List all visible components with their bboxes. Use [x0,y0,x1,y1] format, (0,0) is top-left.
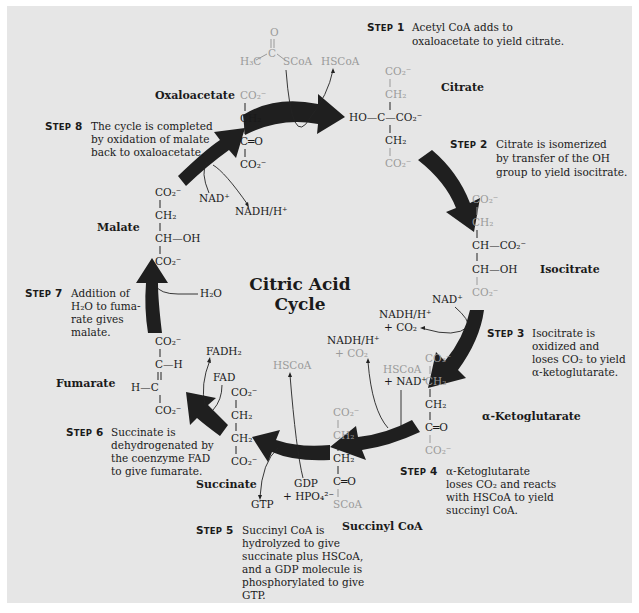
step-text: group to yield isocitrate. [496,166,627,178]
svg-text:CO₂⁻: CO₂⁻ [472,193,498,205]
compound-name-malate: Malate [97,221,140,234]
step2-arrow-icon [418,150,480,232]
step-text: GTP. [242,589,266,601]
svg-text:CH₂: CH₂ [231,409,252,421]
svg-text:CO₂⁻: CO₂⁻ [231,455,257,467]
diagram-title-line2: Cycle [274,294,325,314]
step5-arrow-icon [252,430,330,462]
nadh-label: NADH/H⁺ [327,334,380,346]
step-text: phosphorylated to give [242,576,364,588]
svg-text:CH₂: CH₂ [333,452,354,464]
svg-text:CO₂⁻: CO₂⁻ [155,186,181,198]
step-text: Succinate is [111,426,176,438]
diagram-canvas: Citric Acid Cycle STEP 1 Acetyl CoA adds… [7,6,632,603]
svg-text:CO₂⁻: CO₂⁻ [425,352,451,364]
step-text: Succinyl CoA is [242,524,325,536]
step-3: STEP 3 Isocitrate is oxidized and loses … [487,327,626,378]
step3-cofactors: NAD⁺ NADH/H⁺ + CO₂ [379,293,468,333]
step-2: STEP 2 Citrate is isomerized by transfer… [450,138,627,178]
step-text: Citrate is isomerized [496,138,607,150]
gdp-label: GDP [294,477,318,489]
step-text: the coenzyme FAD [111,452,210,464]
svg-text:CH₂: CH₂ [425,398,446,410]
svg-text:CO₂⁻: CO₂⁻ [155,255,181,267]
co2-label: + CO₂ [335,347,368,359]
svg-text:CH₂: CH₂ [240,112,261,124]
step-text: with HSCoA to yield [446,491,554,503]
succinyl-coa-structure: CO₂⁻ CH₂ CH₂ C═O SCoA [333,406,363,510]
svg-text:CH₂: CH₂ [155,209,176,221]
hscoa-label: HSCoA [383,363,422,375]
step-text: and a GDP molecule is [242,563,362,575]
step-text: oxaloacetate to yield citrate. [412,35,564,47]
svg-text:CO₂⁻: CO₂⁻ [385,157,411,169]
svg-text:C═O: C═O [333,475,356,487]
nad-label: NAD⁺ [432,293,463,305]
citrate-structure: CO₂⁻ CH₂ HO—C—CO₂⁻ CH₂ CO₂⁻ [349,65,422,169]
compound-name-succinyl-coa: Succinyl CoA [342,520,423,533]
hscoa-product-label: HSCoA [321,55,360,67]
compound-name-ketoglutarate: α-Ketoglutarate [482,410,581,423]
step-text: Acetyl CoA adds to [411,21,513,33]
step-label: STEP 5 [196,524,234,536]
compound-name-citrate: Citrate [441,81,484,94]
nadh-label: NADH/H⁺ [379,308,432,320]
step-7: STEP 7 Addition of H₂O to fuma- rate giv… [25,287,141,338]
svg-text:CO₂⁻: CO₂⁻ [472,286,498,298]
step-label: STEP 3 [487,327,525,339]
step-text: back to oxaloacetate. [91,146,204,158]
step7-arrow-icon [136,258,168,333]
step-text: rate gives [71,313,124,325]
step-8: STEP 8 The cycle is completed by oxidati… [45,120,213,158]
step-6: STEP 6 Succinate is dehydrogenated by th… [66,426,214,477]
step-label: STEP 6 [66,426,104,438]
acetyl-scoa-label: SCoA [283,55,313,67]
step-text: dehydrogenated by [111,439,214,451]
step-text: hydrolyzed to give [242,537,340,549]
isocitrate-structure: CO₂⁻ CH₂ CH—CO₂⁻ CH—OH CO₂⁻ [472,193,526,298]
step8-cofactors: NAD⁺ NADH/H⁺ [199,162,288,217]
citric-acid-cycle-diagram: Citric Acid Cycle STEP 1 Acetyl CoA adds… [7,6,632,603]
step-text: Addition of [70,287,131,299]
svg-text:CH—OH: CH—OH [472,263,517,275]
svg-text:O: O [270,26,279,38]
svg-text:CH₂: CH₂ [333,429,354,441]
step-text: The cycle is completed [91,120,213,132]
diagram-title-line1: Citric Acid [249,274,351,294]
step-label: STEP 8 [45,120,83,132]
svg-text:CO₂⁻: CO₂⁻ [240,158,266,170]
hscoa-label: HSCoA [273,359,312,371]
step-5: STEP 5 Succinyl CoA is hydrolyzed to giv… [196,524,364,601]
svg-text:CO₂⁻: CO₂⁻ [231,386,257,398]
compound-name-oxaloacetate: Oxaloacetate [155,89,235,102]
svg-text:CH₂: CH₂ [472,216,493,228]
compound-name-isocitrate: Isocitrate [540,263,600,276]
svg-text:CO₂⁻: CO₂⁻ [155,404,181,416]
step-label: STEP 1 [367,21,405,33]
step-text: H₂O to fuma- [71,300,141,312]
step-text: succinyl CoA. [446,504,518,516]
fad-label: FAD [213,371,235,383]
h2o-label: H₂O [200,287,222,299]
gtp-label: GTP [251,498,273,510]
step7-cofactors: H₂O [155,285,222,299]
step-text: succinate plus HSCoA, [242,550,363,562]
svg-text:CH—OH: CH—OH [155,232,200,244]
step-text: Isocitrate is [532,327,595,339]
svg-text:CH—CO₂⁻: CH—CO₂⁻ [472,239,526,251]
step-text: malate. [71,326,111,338]
step-text: loses CO₂ and reacts [446,478,556,490]
step-label: STEP 4 [400,465,438,477]
svg-text:CH₂: CH₂ [425,375,446,387]
succinate-structure: CO₂⁻ CH₂ CH₂ CO₂⁻ [231,386,257,467]
step-text: α-Ketoglutarate [446,465,530,477]
step-text: oxidized and [532,340,600,352]
svg-text:CO₂⁻: CO₂⁻ [425,444,451,456]
svg-text:CO₂⁻: CO₂⁻ [333,406,359,418]
svg-text:HO—C—CO₂⁻: HO—C—CO₂⁻ [349,111,422,123]
step-text: to give fumarate. [111,465,202,477]
step-label: STEP 7 [25,287,63,299]
svg-text:CO₂⁻: CO₂⁻ [385,65,411,77]
step-1: STEP 1 Acetyl CoA adds to oxaloacetate t… [367,21,564,47]
step-text: by oxidation of malate [91,133,209,145]
